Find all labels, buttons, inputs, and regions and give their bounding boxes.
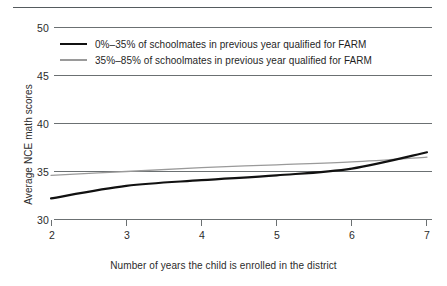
legend-item-dark: 0%–35% of schoolmates in previous year q…: [60, 36, 372, 52]
xtick-label-6: 6: [343, 229, 361, 241]
legend-label-dark: 0%–35% of schoolmates in previous year q…: [87, 39, 366, 50]
xtick-label-7: 7: [418, 229, 436, 241]
x-axis-title: Number of years the child is enrolled in…: [0, 260, 447, 271]
legend-label-light: 35%–85% of schoolmates in previous year …: [87, 55, 372, 66]
y-axis-title: Average NCE math scores: [23, 70, 34, 220]
legend-swatch-light-line-icon: [60, 55, 87, 65]
ytick-label-50: 50: [27, 22, 49, 34]
xtick-label-4: 4: [193, 229, 211, 241]
series-line-dark: [51, 152, 427, 198]
legend-swatch-dark-line-icon: [60, 39, 87, 49]
chart-legend: 0%–35% of schoolmates in previous year q…: [60, 36, 372, 68]
x-axis-ticks: [52, 220, 427, 227]
xtick-label-3: 3: [118, 229, 136, 241]
legend-item-light: 35%–85% of schoolmates in previous year …: [60, 52, 372, 68]
chart-figure: 50 45 40 35 30 2 3 4 5 6 7 Average NCE m…: [0, 0, 447, 286]
xtick-label-5: 5: [268, 229, 286, 241]
xtick-label-2: 2: [43, 229, 61, 241]
